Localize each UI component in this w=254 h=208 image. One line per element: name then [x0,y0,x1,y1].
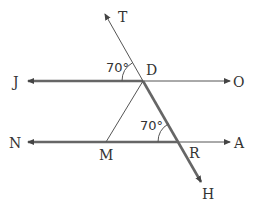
angle-label-r: 70° [140,118,163,133]
point-label-o: O [233,74,244,90]
point-label-d: D [146,62,157,78]
segment-dm [106,81,143,142]
point-label-a: A [233,135,245,151]
point-label-n: N [9,135,21,151]
geometry-diagram: 70° 70° T D J O N A M R H [0,0,254,208]
line-th [105,14,201,182]
point-label-h: H [202,186,214,202]
point-label-r: R [189,145,200,161]
angle-label-d: 70° [106,60,129,75]
point-label-m: M [99,147,113,163]
diagram-canvas: 70° 70° T D J O N A M R H [0,0,254,208]
point-label-t: T [118,9,128,25]
point-label-j: J [11,74,19,90]
